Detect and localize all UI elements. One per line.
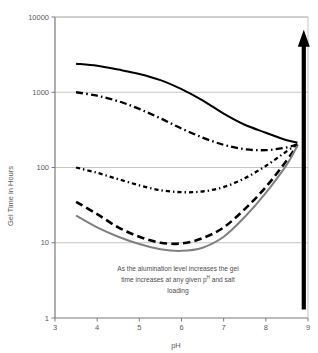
gel-time-vs-ph-chart: 110100100010000 3456789 Gel Time in Hour… — [0, 0, 318, 353]
x-axis-title: pH — [171, 341, 181, 350]
chart-container: 110100100010000 3456789 Gel Time in Hour… — [0, 0, 318, 353]
x-tick-label: 4 — [95, 323, 99, 332]
chart-background — [0, 0, 318, 353]
x-tick-label: 6 — [179, 323, 183, 332]
x-tick-label: 7 — [222, 323, 226, 332]
y-tick-label: 1 — [45, 314, 49, 323]
x-tick-label: 9 — [306, 323, 310, 332]
annotation-line-1: As the alumination level increases the g… — [117, 265, 239, 273]
x-tick-label: 5 — [137, 323, 141, 332]
x-tick-label: 8 — [264, 323, 268, 332]
y-tick-label: 1000 — [32, 88, 49, 97]
x-tick-label: 3 — [53, 323, 57, 332]
y-tick-label: 100 — [36, 163, 49, 172]
annotation-line-2: time increases at any given pH and salt — [121, 275, 235, 284]
annotation-line-2-after: and salt — [210, 276, 235, 283]
y-tick-label: 10 — [41, 238, 49, 247]
annotation-line-2-before: time increases at any given p — [121, 276, 207, 284]
y-tick-label: 10000 — [28, 13, 49, 22]
y-axis-title: Gel Time in Hours — [6, 166, 15, 226]
annotation-line-3: loading — [167, 287, 189, 295]
